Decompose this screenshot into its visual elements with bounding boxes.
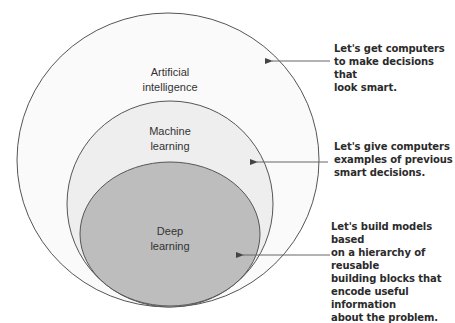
dl-label: Deep learning [125, 224, 215, 254]
dl-annotation: Let's build models based on a hierarchy … [331, 220, 455, 323]
ai-label: Artificial intelligence [125, 65, 215, 95]
ml-label: Machine learning [125, 124, 215, 154]
ml-annotation: Let's give computers examples of previou… [334, 140, 455, 179]
ai-ml-dl-diagram: Artificial intelligence Machine learning… [0, 0, 455, 323]
ai-annotation: Let's get computers to make decisions th… [334, 42, 455, 94]
